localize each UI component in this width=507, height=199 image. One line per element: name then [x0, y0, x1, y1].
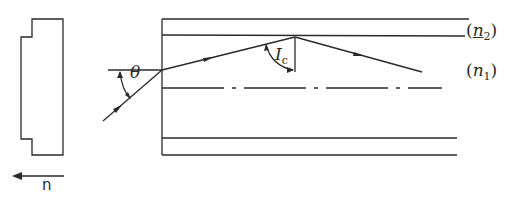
fiber-diagram: [0, 0, 507, 199]
core-index-subscript: 1: [484, 70, 491, 83]
critical-angle-symbol: I: [275, 44, 282, 64]
fiber-end-profile: [21, 19, 63, 155]
ic-arrowhead-bottom: [287, 67, 294, 73]
refracted-ray-arrowhead: [203, 57, 214, 62]
core-index-label: (n1): [466, 60, 497, 83]
core-index-symbol: n: [473, 60, 484, 80]
cladding-index-symbol: n: [473, 20, 484, 40]
critical-angle-label: Ic: [275, 44, 288, 67]
cladding-index-subscript: 2: [484, 30, 491, 43]
theta-label: θ: [130, 62, 140, 82]
core-cladding-top: [162, 35, 465, 36]
cladding-index-label: (n2): [466, 20, 497, 43]
direction-arrowhead: [12, 172, 22, 180]
theta-arrowhead-top: [117, 71, 123, 78]
reflected-ray-arrowhead: [353, 52, 365, 56]
direction-label: n: [42, 176, 52, 194]
critical-angle-subscript: c: [282, 54, 288, 67]
